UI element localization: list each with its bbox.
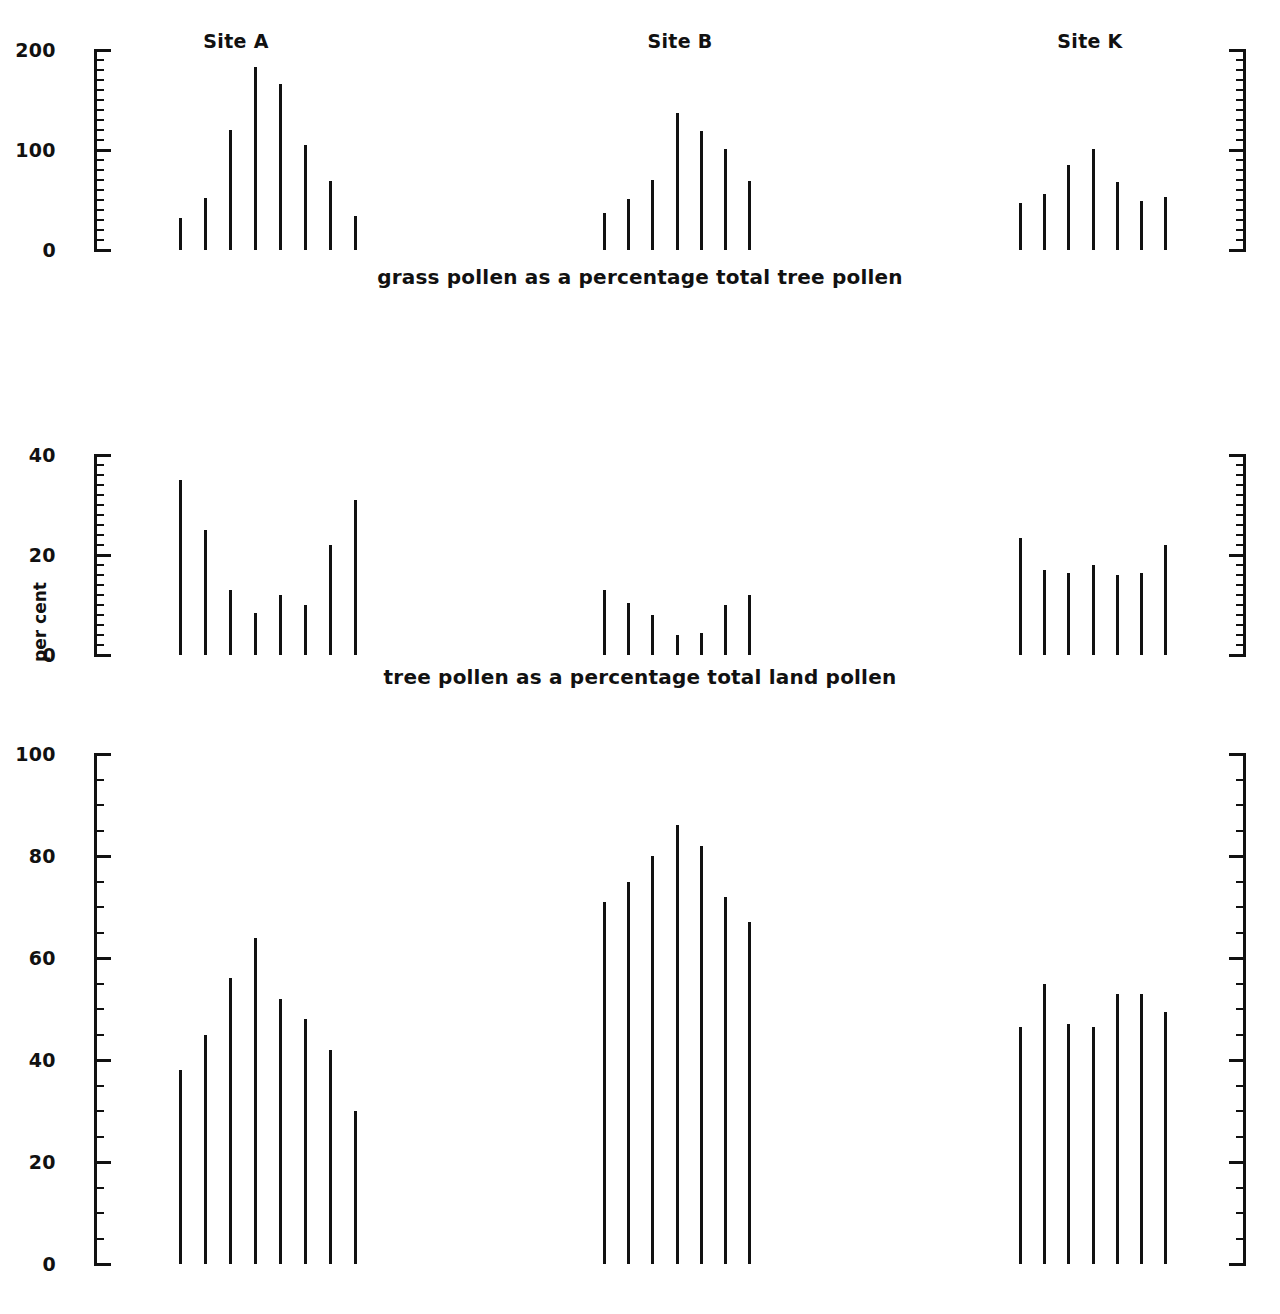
axis-tick-minor [1236, 544, 1246, 546]
axis-tick-minor [94, 830, 104, 832]
axis-tick-major [94, 1059, 111, 1062]
axis-tick-minor [1236, 1110, 1246, 1112]
axis-tick-minor [94, 494, 104, 496]
axis-tick-minor [94, 524, 104, 526]
axis-tick-minor [1236, 474, 1246, 476]
axis-tick-minor [94, 219, 104, 221]
axis-tick-major [94, 753, 111, 756]
axis-tick-minor [1236, 881, 1246, 883]
axis-tick-major [1229, 957, 1246, 960]
axis-tick-major [1229, 554, 1246, 557]
axis-tick-minor [94, 564, 104, 566]
axis-tick-minor [94, 209, 104, 211]
axis-tick-major [1229, 1263, 1246, 1266]
bar [229, 130, 232, 250]
axis-tick-minor [1236, 1238, 1246, 1240]
bar [1019, 1027, 1022, 1264]
axis-tick-major [1229, 49, 1246, 52]
bar [700, 633, 703, 656]
axis-tick-minor [1236, 932, 1246, 934]
axis-tick-minor [1236, 484, 1246, 486]
axis-tick-minor [94, 624, 104, 626]
axis-tick-minor [94, 109, 104, 111]
axis-tick-major [94, 1161, 111, 1164]
axis-tick-major [1229, 654, 1246, 657]
bar [329, 1050, 332, 1264]
bar [354, 500, 357, 655]
axis-tick-minor [1236, 504, 1246, 506]
axis-tick-minor [1236, 1008, 1246, 1010]
panel-1-site-k [1008, 50, 1178, 250]
axis-tick-minor [94, 514, 104, 516]
axis-tick-minor [94, 1110, 104, 1112]
bar [748, 922, 751, 1264]
bar [229, 978, 232, 1264]
axis-tick-minor [1236, 239, 1246, 241]
axis-tick-minor [1236, 199, 1246, 201]
axis-tick-minor [1236, 1187, 1246, 1189]
bar [603, 590, 606, 655]
axis-tick-minor [94, 99, 104, 101]
bar [1092, 1027, 1095, 1264]
axis-tick-label: 20 [29, 1151, 56, 1173]
panel-tree-pollen: 02040 tree pollen as a percentage total … [0, 400, 1280, 700]
axis-tick-minor [1236, 604, 1246, 606]
axis-tick-label: 200 [15, 39, 56, 61]
axis-tick-minor [94, 1034, 104, 1036]
axis-tick-minor [1236, 584, 1246, 586]
bar [354, 216, 357, 250]
axis-tick-minor [1236, 644, 1246, 646]
axis-tick-label: 40 [29, 1049, 56, 1071]
axis-tick-major [1229, 1059, 1246, 1062]
axis-tick-minor [94, 544, 104, 546]
bar [329, 545, 332, 655]
bar [603, 902, 606, 1264]
axis-tick-minor [1236, 1212, 1246, 1214]
axis-tick-major [94, 49, 111, 52]
bar [700, 131, 703, 250]
axis-tick-minor [94, 169, 104, 171]
axis-tick-major [94, 855, 111, 858]
axis-tick-minor [1236, 119, 1246, 121]
axis-tick-minor [1236, 129, 1246, 131]
axis-tick-minor [1236, 59, 1246, 61]
axis-tick-label: 40 [29, 444, 56, 466]
bar [676, 113, 679, 250]
axis-tick-minor [1236, 524, 1246, 526]
axis-tick-major [94, 654, 111, 657]
axis-tick-minor [1236, 179, 1246, 181]
axis-tick-major [94, 957, 111, 960]
axis-tick-minor [94, 119, 104, 121]
axis-tick-minor [1236, 564, 1246, 566]
bar [279, 84, 282, 250]
axis-tick-minor [1236, 514, 1246, 516]
axis-tick-minor [94, 634, 104, 636]
axis-tick-minor [1236, 219, 1246, 221]
axis-tick-minor [1236, 99, 1246, 101]
axis-tick-minor [1236, 89, 1246, 91]
panel-1-caption: grass pollen as a percentage total tree … [0, 265, 1280, 289]
axis-tick-minor [94, 199, 104, 201]
panel-2-site-k [1008, 455, 1178, 655]
axis-tick-minor [94, 604, 104, 606]
panel-1-site-a [168, 50, 368, 250]
axis-tick-label: 100 [15, 743, 56, 765]
bar [1140, 201, 1143, 250]
site-title-b: Site B [647, 30, 712, 52]
axis-tick-major [1229, 1161, 1246, 1164]
axis-tick-minor [1236, 1034, 1246, 1036]
axis-tick-minor [1236, 634, 1246, 636]
bar [1043, 570, 1046, 655]
axis-tick-minor [94, 584, 104, 586]
axis-tick-major [94, 1263, 111, 1266]
axis-tick-minor [94, 1238, 104, 1240]
axis-tick-minor [94, 159, 104, 161]
panel-2-caption: tree pollen as a percentage total land p… [0, 665, 1280, 689]
axis-tick-minor [1236, 1085, 1246, 1087]
site-title-a: Site A [203, 30, 268, 52]
bar [1140, 573, 1143, 656]
bar [1043, 984, 1046, 1265]
bar [700, 846, 703, 1264]
axis-tick-minor [94, 1212, 104, 1214]
axis-tick-minor [94, 574, 104, 576]
